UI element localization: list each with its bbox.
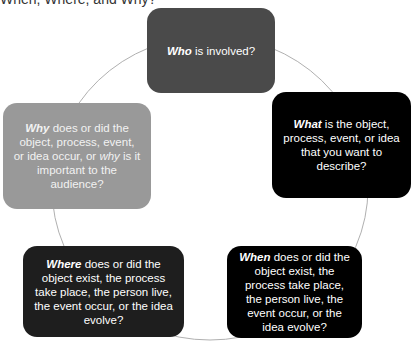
node-where: Where does or did the object exist, the … bbox=[23, 246, 184, 337]
node-who-text: Who is involved? bbox=[167, 44, 255, 58]
node-why: Why does or did the object, process, eve… bbox=[3, 103, 151, 209]
node-why-text: Why does or did the object, process, eve… bbox=[13, 121, 141, 191]
node-when: When does or did the object exist, the p… bbox=[227, 246, 362, 338]
node-where-text: Where does or did the object exist, the … bbox=[33, 257, 174, 327]
node-when-text: When does or did the object exist, the p… bbox=[237, 250, 352, 334]
node-who: Who is involved? bbox=[147, 8, 275, 93]
node-what: What is the object, process, event, or i… bbox=[272, 92, 411, 198]
node-what-text: What is the object, process, event, or i… bbox=[282, 117, 401, 173]
